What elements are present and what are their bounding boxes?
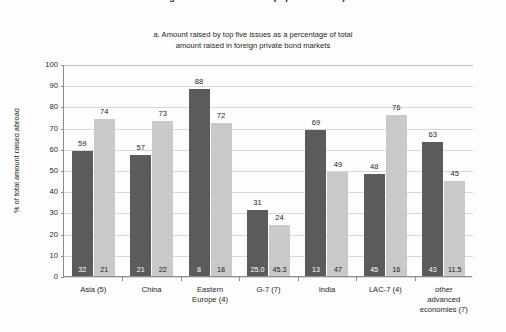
bar-group: 3125.02445.3 xyxy=(247,64,290,276)
bar-value-label: 48 xyxy=(370,162,378,171)
bar-value-label: 49 xyxy=(334,160,342,169)
x-axis-label-line: India xyxy=(298,285,356,295)
y-tick-label-50: 50 xyxy=(16,166,58,175)
bar-value-label: 88 xyxy=(195,77,203,86)
bar-value-label: 63 xyxy=(429,130,437,139)
x-axis-label-line: other xyxy=(415,285,473,295)
bar-base-label: 8 xyxy=(197,265,201,274)
bar-value-label: 69 xyxy=(312,118,320,127)
bar-base-label: 16 xyxy=(392,265,400,274)
bar-value-label: 73 xyxy=(158,109,166,118)
x-tick-mark xyxy=(181,277,182,281)
bar-value-label: 45 xyxy=(451,169,459,178)
x-tick-mark xyxy=(298,277,299,281)
bar-value-label: 57 xyxy=(136,143,144,152)
y-tick-mark-80 xyxy=(61,107,64,108)
bar-base-label: 21 xyxy=(137,265,145,274)
bar-light: 7421 xyxy=(94,119,115,276)
x-axis-label: EasternEurope (4) xyxy=(181,285,239,305)
bar-light: 7616 xyxy=(386,115,407,276)
bar-light: 4947 xyxy=(327,172,348,276)
x-axis-label-line: economies (7) xyxy=(415,305,473,315)
y-tick-mark-10 xyxy=(61,256,64,257)
x-axis-label-line: advanced xyxy=(415,295,473,305)
bar-dark: 4845 xyxy=(364,174,385,276)
y-tick-mark-70 xyxy=(61,129,64,130)
bar-base-label: 11.5 xyxy=(448,265,461,274)
y-tick-label-30: 30 xyxy=(16,208,58,217)
bar-base-label: 13 xyxy=(312,265,320,274)
bar-base-label: 18 xyxy=(217,265,225,274)
bar-base-label: 25.0 xyxy=(251,265,265,274)
y-tick-mark-30 xyxy=(61,213,64,214)
bar-dark: 6343 xyxy=(422,142,443,276)
x-axis-label: G-7 (7) xyxy=(239,285,297,295)
bar-base-label: 43 xyxy=(429,265,437,274)
y-tick-label-70: 70 xyxy=(16,124,58,133)
bar-group: 59327421 xyxy=(72,64,115,276)
bar-base-label: 47 xyxy=(334,265,342,274)
bar-dark: 3125.0 xyxy=(247,210,268,276)
x-axis-label: India xyxy=(298,285,356,295)
x-axis-label-line: Asia (5) xyxy=(64,285,122,295)
bar-value-label: 59 xyxy=(78,139,86,148)
bar-light: 4511.5 xyxy=(444,181,465,276)
x-tick-mark xyxy=(356,277,357,281)
bar-base-label: 45.3 xyxy=(273,265,287,274)
x-tick-mark xyxy=(415,277,416,281)
bar-base-label: 22 xyxy=(159,265,167,274)
y-tick-label-0: 0 xyxy=(16,272,58,281)
bar-base-label: 21 xyxy=(100,265,108,274)
y-tick-label-90: 90 xyxy=(16,81,58,90)
plot-area: 010203040506070809010059327421Asia (5)57… xyxy=(63,65,472,277)
y-tick-mark-90 xyxy=(61,86,64,87)
x-axis-label-line: Europe (4) xyxy=(181,295,239,305)
y-tick-mark-40 xyxy=(61,192,64,193)
bar-value-label: 31 xyxy=(253,198,261,207)
bar-base-label: 32 xyxy=(78,265,86,274)
y-tick-label-10: 10 xyxy=(16,251,58,260)
bar-light: 7218 xyxy=(211,123,232,276)
chart-subtitle-line-1: a. Amount raised by top five issues as a… xyxy=(0,30,506,41)
bar-dark: 5932 xyxy=(72,151,93,276)
y-tick-label-80: 80 xyxy=(16,102,58,111)
x-axis-label-line: China xyxy=(122,285,180,295)
bar-dark: 888 xyxy=(189,89,210,276)
y-tick-label-20: 20 xyxy=(16,230,58,239)
bar-value-label: 72 xyxy=(217,111,225,120)
bar-group: 8887218 xyxy=(189,64,232,276)
x-tick-mark xyxy=(239,277,240,281)
y-tick-label-60: 60 xyxy=(16,145,58,154)
bar-group: 48457616 xyxy=(364,64,407,276)
x-tick-mark xyxy=(122,277,123,281)
y-tick-mark-60 xyxy=(61,150,64,151)
y-tick-label-40: 40 xyxy=(16,187,58,196)
bar-light: 7322 xyxy=(152,121,173,276)
bar-group: 63434511.5 xyxy=(422,64,465,276)
chart-subtitle: a. Amount raised by top five issues as a… xyxy=(0,30,506,51)
clipped-figure-heading: Figure 3. Bond issuance (top five issues… xyxy=(0,0,506,11)
clipped-figure-heading-text: Figure 3. Bond issuance (top five issues… xyxy=(0,0,506,2)
y-tick-mark-0 xyxy=(61,277,64,278)
x-axis-label-line: Eastern xyxy=(181,285,239,295)
bar-group: 57217322 xyxy=(130,64,173,276)
x-axis-label: otheradvancedeconomies (7) xyxy=(415,285,473,315)
gridline-0 xyxy=(64,277,473,278)
bar-group: 69134947 xyxy=(305,64,348,276)
x-axis-label: China xyxy=(122,285,180,295)
chart-subtitle-line-2: amount raised in foreign private bond ma… xyxy=(0,41,506,52)
bar-value-label: 76 xyxy=(392,103,400,112)
bar-light: 2445.3 xyxy=(269,225,290,276)
x-axis-label: Asia (5) xyxy=(64,285,122,295)
x-axis-label-line: LAC-7 (4) xyxy=(356,285,414,295)
y-tick-mark-20 xyxy=(61,235,64,236)
bar-dark: 5721 xyxy=(130,155,151,276)
bar-base-label: 45 xyxy=(370,265,378,274)
bar-value-label: 74 xyxy=(100,107,108,116)
x-axis-label-line: G-7 (7) xyxy=(239,285,297,295)
bar-value-label: 24 xyxy=(275,213,283,222)
y-tick-mark-100 xyxy=(61,65,64,66)
bar-dark: 6913 xyxy=(305,130,326,276)
y-tick-label-100: 100 xyxy=(16,60,58,69)
x-axis-label: LAC-7 (4) xyxy=(356,285,414,295)
